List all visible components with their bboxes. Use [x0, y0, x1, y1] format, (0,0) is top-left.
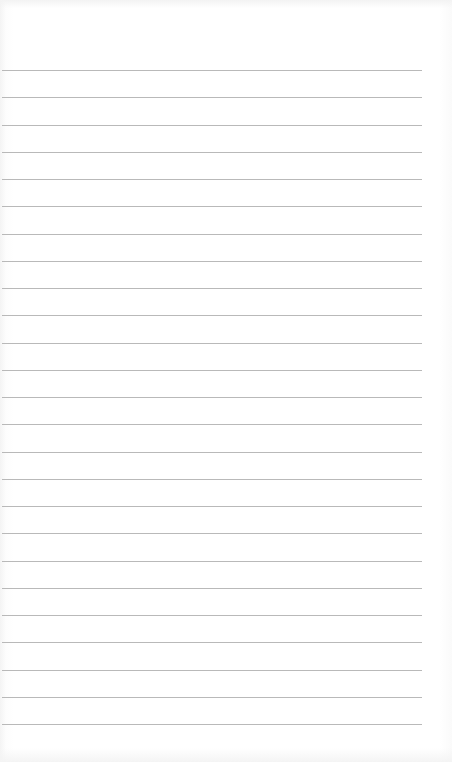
ruled-line [2, 206, 422, 207]
ruled-line [2, 343, 422, 344]
ruled-line [2, 588, 422, 589]
top-edge-shadow [0, 0, 452, 8]
ruled-line [2, 452, 422, 453]
ruled-line [2, 397, 422, 398]
lined-paper-sheet [0, 0, 452, 762]
ruled-line [2, 506, 422, 507]
ruled-line [2, 642, 422, 643]
ruled-line [2, 697, 422, 698]
bottom-edge-shadow [0, 748, 452, 762]
ruled-line [2, 125, 422, 126]
ruled-line [2, 70, 422, 71]
ruled-line [2, 152, 422, 153]
ruled-line [2, 561, 422, 562]
ruled-line [2, 615, 422, 616]
ruled-line [2, 724, 422, 725]
ruled-line [2, 234, 422, 235]
ruled-line [2, 261, 422, 262]
ruled-line [2, 288, 422, 289]
ruled-line [2, 533, 422, 534]
ruled-line [2, 424, 422, 425]
ruled-line [2, 479, 422, 480]
ruled-line [2, 315, 422, 316]
ruled-line [2, 97, 422, 98]
ruled-line [2, 370, 422, 371]
ruled-line [2, 670, 422, 671]
ruled-line [2, 179, 422, 180]
